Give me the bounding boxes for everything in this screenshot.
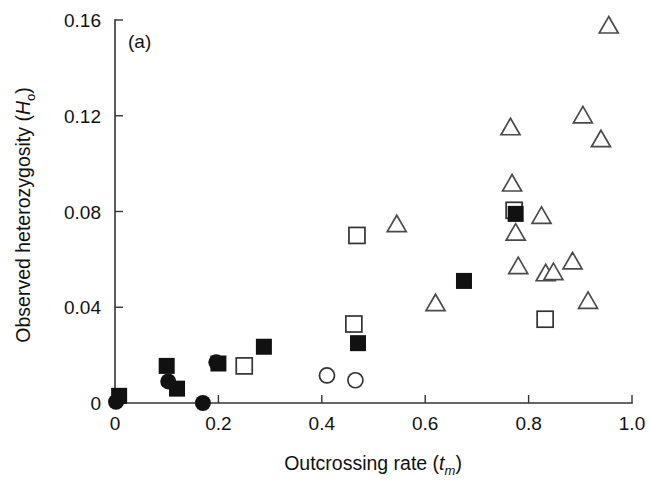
data-point-open-triangle	[573, 106, 592, 122]
data-point-filled-circle	[160, 373, 176, 389]
x-tick-label: 0.8	[515, 413, 541, 434]
data-point-open-triangle	[503, 175, 522, 191]
axis-ticks	[115, 20, 632, 403]
data-point-open-circle	[348, 373, 363, 388]
figure-panel-a: 00.20.40.60.81.000.040.080.120.16 (a) Ou…	[0, 0, 649, 487]
data-point-open-triangle	[591, 130, 610, 146]
data-point-open-triangle	[579, 292, 598, 308]
x-tick-label: 1.0	[619, 413, 645, 434]
x-axis-title: Outcrossing rate (tm)	[284, 452, 462, 478]
data-point-filled-square	[350, 335, 366, 351]
data-point-open-triangle	[387, 215, 406, 231]
data-point-open-square	[346, 316, 362, 332]
y-tick-label: 0.12	[64, 106, 101, 127]
data-point-open-triangle	[426, 294, 445, 310]
data-markers	[108, 17, 618, 411]
x-tick-label: 0	[110, 413, 121, 434]
data-point-filled-square	[159, 358, 175, 374]
x-tick-label: 0.6	[412, 413, 438, 434]
data-point-filled-square	[508, 206, 524, 222]
y-tick-label: 0.16	[64, 10, 101, 31]
data-point-open-triangle	[532, 207, 551, 223]
data-point-open-square	[349, 227, 365, 243]
data-point-open-triangle	[501, 118, 520, 134]
data-point-open-circle	[319, 368, 334, 383]
axes	[115, 20, 632, 403]
axis-tick-labels: 00.20.40.60.81.000.040.080.120.16	[64, 10, 645, 434]
data-point-open-triangle	[506, 224, 525, 240]
panel-label: (a)	[128, 31, 151, 52]
data-point-open-triangle	[509, 257, 528, 273]
y-axis-title: Observed heterozygosity (Ho)	[12, 87, 38, 342]
x-tick-label: 0.4	[309, 413, 336, 434]
scatter-plot: 00.20.40.60.81.000.040.080.120.16 (a) Ou…	[0, 0, 649, 487]
data-point-filled-circle	[108, 394, 124, 410]
y-tick-label: 0.08	[64, 202, 101, 223]
data-point-open-square	[537, 311, 553, 327]
data-point-filled-circle	[208, 354, 224, 370]
data-point-open-triangle	[599, 17, 618, 33]
data-point-open-square	[236, 358, 252, 374]
data-point-filled-square	[456, 273, 472, 289]
x-tick-label: 0.2	[205, 413, 231, 434]
data-point-filled-circle	[195, 395, 211, 411]
data-point-open-triangle	[563, 252, 582, 268]
data-point-filled-square	[256, 339, 272, 355]
y-tick-label: 0.04	[64, 297, 101, 318]
y-tick-label: 0	[90, 393, 101, 414]
